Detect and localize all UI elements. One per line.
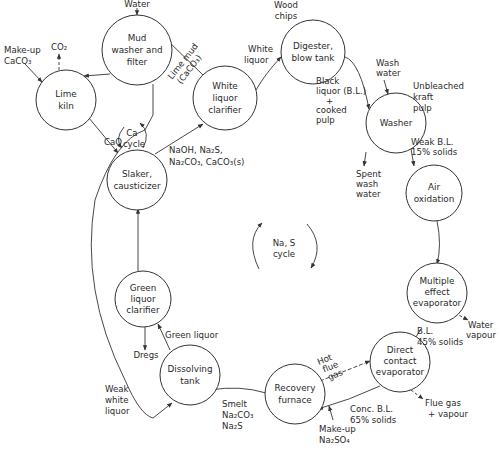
arrow-makeup-caco3 (25, 64, 42, 82)
svg-text:CaCO₃: CaCO₃ (4, 56, 32, 66)
svg-text:clarifier: clarifier (208, 105, 242, 115)
svg-text:pulp: pulp (413, 103, 432, 113)
svg-text:White: White (212, 81, 238, 91)
arrow-makeup-na2so4 (329, 406, 333, 420)
svg-text:kraft: kraft (413, 92, 434, 102)
svg-text:causticizer: causticizer (113, 181, 161, 191)
arrow-smelt (210, 388, 266, 393)
svg-text:liquor (B.L.): liquor (B.L.) (316, 86, 366, 96)
svg-text:65% solids: 65% solids (350, 415, 397, 425)
svg-text:cycle: cycle (123, 139, 145, 149)
svg-text:chips: chips (275, 11, 298, 21)
svg-text:Na₂S: Na₂S (222, 421, 243, 431)
svg-text:vapour: vapour (466, 330, 497, 340)
svg-text:evaporator: evaporator (413, 298, 462, 308)
node-air-oxidation: Air oxidation (406, 165, 462, 221)
svg-text:evaporator: evaporator (376, 367, 425, 377)
svg-text:Mud: Mud (128, 33, 147, 43)
label-spent-wash: Spent (356, 169, 382, 179)
svg-text:liquor: liquor (212, 93, 237, 103)
svg-text:Multiple: Multiple (420, 276, 455, 286)
label-smelt: Smelt (222, 399, 248, 409)
svg-text:water: water (376, 68, 401, 78)
arrow-spent-wash (364, 152, 366, 166)
svg-text:Digester,: Digester, (293, 41, 333, 51)
arrow-mud-to-kiln (84, 74, 110, 76)
node-dissolving-tank: Dissolving tank (160, 345, 220, 405)
svg-text:filter: filter (127, 57, 148, 67)
svg-text:Green: Green (130, 283, 157, 293)
na-s-cycle-arc-left (253, 223, 262, 269)
svg-text:cycle: cycle (273, 249, 295, 259)
svg-text:liquor: liquor (130, 294, 155, 304)
svg-text:15% solids: 15% solids (411, 147, 458, 157)
label-dregs: Dregs (133, 350, 159, 360)
svg-text:wash: wash (356, 179, 378, 189)
label-black-liquor: Black (316, 76, 339, 86)
label-cao: CaO (104, 137, 122, 147)
arrow-black-liquor (345, 57, 369, 109)
label-wood-chips: Wood (274, 0, 298, 10)
svg-text:Dissolving: Dissolving (167, 364, 212, 374)
arrow-cao (89, 118, 118, 153)
node-lime-kiln: Lime kiln (36, 70, 96, 130)
arrow-wash-water (384, 80, 388, 94)
node-recovery-furnace: Recovery furnace (265, 364, 325, 424)
label-wash-water: Wash (376, 58, 399, 68)
svg-text:washer and: washer and (111, 45, 162, 55)
svg-text:furnace: furnace (278, 395, 311, 405)
label-water-vapour: Water (468, 320, 494, 330)
label-flue-gas-vapour: Flue gas (425, 398, 462, 408)
label-conc-bl: Conc. B.L. (350, 404, 393, 414)
node-green-liquor-clarifier: Green liquor clarifier (115, 271, 171, 327)
svg-text:effect: effect (424, 287, 450, 297)
na-s-cycle-arc-right (307, 224, 317, 268)
svg-text:+ vapour: + vapour (428, 409, 468, 419)
svg-text:liquor: liquor (105, 406, 130, 416)
svg-text:Slaker,: Slaker, (122, 169, 152, 179)
label-makeup-caco3: Make-up (4, 45, 41, 55)
svg-text:Direct: Direct (387, 345, 414, 355)
svg-text:clarifier: clarifier (126, 305, 160, 315)
label-makeup-na2so4: Make-up (319, 424, 356, 434)
label-bl-45: B.L. (417, 326, 433, 336)
svg-text:tank: tank (180, 376, 200, 386)
label-water: Water (124, 0, 150, 9)
svg-text:liquor: liquor (244, 55, 269, 65)
label-slaker-out: NaOH, Na₂S, (169, 145, 223, 155)
node-white-liquor-clarifier: White liquor clarifier (193, 66, 257, 130)
svg-text:white: white (105, 395, 129, 405)
svg-text:water: water (356, 189, 381, 199)
svg-text:Na₂SO₄: Na₂SO₄ (319, 435, 350, 445)
label-unbleached-pulp: Unbleached (413, 81, 464, 91)
node-multiple-effect-evaporator: Multiple effect evaporator (407, 263, 467, 323)
svg-text:Recovery: Recovery (275, 383, 316, 393)
node-mud-washer: Mud washer and filter (102, 15, 172, 85)
label-ca-cycle: Ca (126, 128, 137, 138)
svg-text:cooked: cooked (316, 105, 347, 115)
node-slaker: Slaker, causticizer (107, 150, 167, 210)
label-na-s-cycle: Na, S (273, 238, 296, 248)
svg-text:blow tank: blow tank (292, 53, 336, 63)
node-digester: Digester, blow tank (281, 20, 345, 84)
svg-text:pulp: pulp (316, 115, 335, 125)
label-green-liquor: Green liquor (165, 330, 219, 340)
kraft-process-diagram: Mud washer and filter Lime kiln White li… (0, 0, 500, 451)
svg-text:Na₂CO₃, CaCO₃(s): Na₂CO₃, CaCO₃(s) (169, 157, 244, 167)
arrow-air-to-mee (437, 221, 440, 264)
label-weak-bl: Weak B.L. (411, 137, 453, 147)
svg-text:Lime: Lime (55, 89, 76, 99)
svg-text:Air: Air (428, 182, 440, 192)
svg-text:White: White (248, 44, 273, 54)
svg-text:Na₂CO₃: Na₂CO₃ (222, 410, 254, 420)
svg-text:oxidation: oxidation (414, 194, 455, 204)
svg-text:kiln: kiln (58, 101, 74, 111)
label-co2: CO₂ (51, 42, 67, 52)
label-weak-white-liquor: Weak (105, 384, 129, 394)
svg-text:contact: contact (384, 356, 417, 366)
svg-text:Washer: Washer (380, 118, 413, 128)
svg-text:45% solids: 45% solids (417, 337, 464, 347)
